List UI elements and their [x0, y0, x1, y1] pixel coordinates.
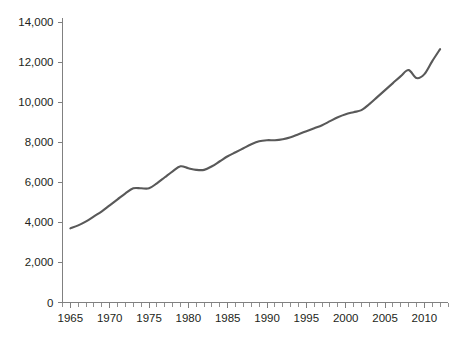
x-tick-label: 1985 [215, 312, 241, 324]
x-tick-label: 2010 [412, 312, 438, 324]
y-tick-label: 14,000 [18, 16, 53, 28]
x-tick-label: 2000 [333, 312, 359, 324]
x-tick-label: 1975 [136, 312, 162, 324]
x-tick-label: 1980 [176, 312, 202, 324]
x-tick-label: 1970 [97, 312, 123, 324]
y-tick-label: 10,000 [18, 96, 53, 108]
x-tick-label: 1965 [58, 312, 84, 324]
y-tick-label: 4,000 [25, 216, 54, 228]
x-tick-label: 1995 [294, 312, 320, 324]
y-tick-label: 12,000 [18, 56, 53, 68]
line-chart: 02,0004,0006,0008,00010,00012,00014,000 … [0, 0, 463, 338]
x-tick-label: 2005 [372, 312, 398, 324]
chart-container: 02,0004,0006,0008,00010,00012,00014,000 … [0, 0, 463, 338]
x-tick-label: 1990 [254, 312, 280, 324]
y-tick-label: 6,000 [25, 176, 54, 188]
y-tick-label: 8,000 [25, 136, 54, 148]
plot-background [0, 0, 463, 338]
y-tick-label: 2,000 [25, 256, 54, 268]
y-tick-label: 0 [47, 297, 53, 309]
